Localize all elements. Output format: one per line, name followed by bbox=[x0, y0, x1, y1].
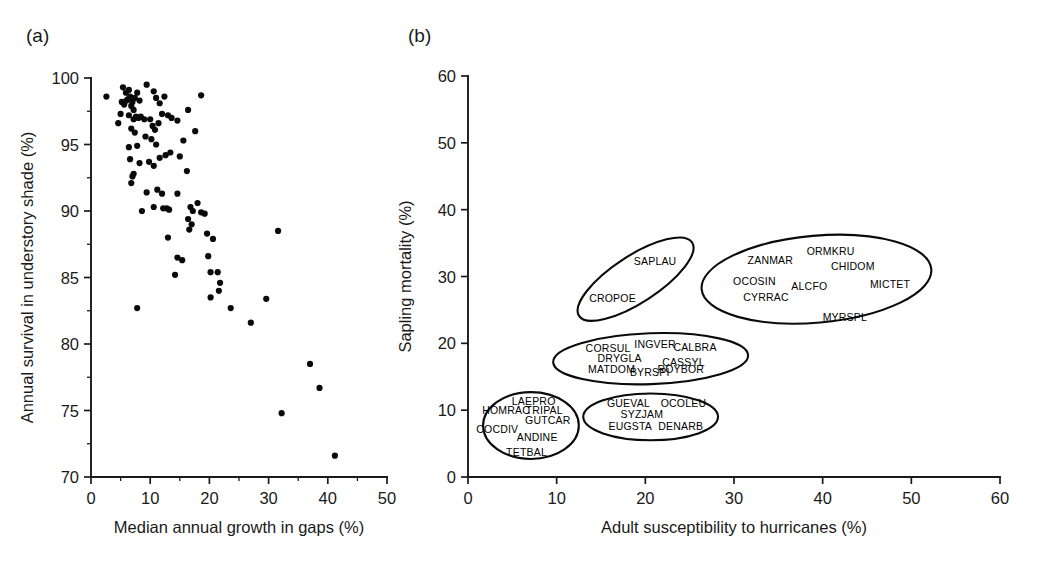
panel-a-ytick-label: 80 bbox=[61, 335, 79, 353]
scatter-point bbox=[134, 305, 140, 311]
group-shade-tolerant-mid: GUEVALOCOLEUSYZJAMEUGSTADENARB bbox=[583, 393, 718, 440]
scatter-point bbox=[217, 280, 223, 286]
scatter-point bbox=[167, 149, 173, 155]
scatter-point bbox=[134, 90, 140, 96]
scatter-point bbox=[131, 107, 137, 113]
group-saplau-cropoe: SAPLAUCROPOE bbox=[566, 223, 705, 336]
species-code-label: TETBAL bbox=[506, 446, 547, 458]
species-code-label: ORMKRU bbox=[807, 245, 855, 257]
scatter-point bbox=[153, 95, 159, 101]
species-code-label: MICTET bbox=[870, 278, 911, 290]
scatter-point bbox=[332, 453, 338, 459]
scatter-point bbox=[205, 253, 211, 259]
species-code-label: MATDOM bbox=[588, 363, 635, 375]
panel-b-xtick-label: 10 bbox=[547, 489, 565, 507]
scatter-point bbox=[179, 257, 185, 263]
scatter-point bbox=[148, 136, 154, 142]
scatter-point bbox=[142, 133, 148, 139]
scatter-point bbox=[103, 94, 109, 100]
species-code-label: ALCFO bbox=[791, 280, 827, 292]
panel-a-tag: (a) bbox=[26, 25, 49, 46]
panel-b-xaxis-title: Adult susceptibility to hurricanes (%) bbox=[601, 518, 867, 536]
scatter-point bbox=[126, 112, 132, 118]
scatter-point bbox=[141, 116, 147, 122]
figure-svg: (a)70758085909510001020304050Median annu… bbox=[0, 0, 1058, 562]
scatter-point bbox=[139, 208, 145, 214]
panel-a-xaxis-title: Median annual growth in gaps (%) bbox=[114, 518, 364, 536]
species-code-label: EUGSTA bbox=[608, 420, 652, 432]
scatter-point bbox=[136, 98, 142, 104]
panel-a-xtick-label: 20 bbox=[200, 489, 218, 507]
scatter-point bbox=[174, 191, 180, 197]
panel-a-xtick-label: 0 bbox=[86, 489, 95, 507]
scatter-point bbox=[146, 159, 152, 165]
group-hurricane-tolerant: ORMKRUZANMARCHIDOMOCOSINALCFOMICTETCYRRA… bbox=[698, 226, 935, 333]
scatter-point bbox=[159, 191, 165, 197]
scatter-point bbox=[190, 208, 196, 214]
scatter-point bbox=[307, 361, 313, 367]
species-code-label: SAPLAU bbox=[634, 255, 677, 267]
group-intermediate: INGVERCORSULCALBRADRYGLACASSYLMATDOMBYRS… bbox=[552, 330, 749, 388]
scatter-point bbox=[153, 141, 159, 147]
scatter-point bbox=[186, 227, 192, 233]
scatter-point bbox=[177, 153, 183, 159]
scatter-point bbox=[151, 88, 157, 94]
scatter-point bbox=[279, 410, 285, 416]
species-code-label: DENARB bbox=[658, 420, 703, 432]
scatter-point bbox=[275, 228, 281, 234]
scatter-point bbox=[129, 173, 135, 179]
species-code-label: CALBRA bbox=[673, 341, 716, 353]
panel-b-xtick-label: 50 bbox=[902, 489, 920, 507]
panel-b-xtick-label: 40 bbox=[813, 489, 831, 507]
scatter-point bbox=[185, 216, 191, 222]
species-code-label: ROYBOR bbox=[657, 363, 704, 375]
scatter-point bbox=[136, 160, 142, 166]
scatter-point bbox=[147, 116, 153, 122]
panel-a-ytick-label: 85 bbox=[61, 269, 79, 287]
scatter-point bbox=[166, 207, 172, 213]
scatter-point bbox=[152, 127, 158, 133]
species-code-label: OCOSIN bbox=[733, 275, 776, 287]
scatter-point bbox=[316, 385, 322, 391]
scatter-point bbox=[215, 269, 221, 275]
scatter-point bbox=[248, 320, 254, 326]
species-code-label: COCDIV bbox=[476, 423, 518, 435]
scatter-point bbox=[154, 187, 160, 193]
scatter-point bbox=[189, 221, 195, 227]
scatter-point bbox=[216, 288, 222, 294]
scatter-point bbox=[228, 305, 234, 311]
scatter-point bbox=[128, 180, 134, 186]
scatter-point bbox=[204, 231, 210, 237]
species-code-label: CYRRAC bbox=[743, 291, 789, 303]
panel-b-ytick-label: 0 bbox=[447, 468, 456, 486]
species-code-label: CHIDOM bbox=[831, 260, 875, 272]
scatter-point bbox=[194, 200, 200, 206]
scatter-point bbox=[157, 100, 163, 106]
scatter-point bbox=[210, 236, 216, 242]
species-code-label: HOMRAC bbox=[482, 404, 530, 416]
scatter-point bbox=[207, 269, 213, 275]
panel-b-ytick-label: 30 bbox=[438, 268, 456, 286]
scatter-point bbox=[118, 111, 124, 117]
species-code-label: ZANMAR bbox=[748, 254, 794, 266]
panel-b-ytick-label: 20 bbox=[438, 334, 456, 352]
panel-b-tag: (b) bbox=[408, 25, 431, 46]
scatter-point bbox=[151, 204, 157, 210]
scatter-point bbox=[172, 272, 178, 278]
scatter-point bbox=[159, 111, 165, 117]
panel-b-ytick-label: 40 bbox=[438, 201, 456, 219]
group-shade-tolerant-left: LAEPROHOMRACTRIPALGUTCARCOCDIVANDINETETB… bbox=[476, 392, 579, 459]
panel-b-ytick-label: 60 bbox=[438, 67, 456, 85]
panel-a-ytick-label: 95 bbox=[61, 136, 79, 154]
scatter-point bbox=[180, 137, 186, 143]
scatter-point bbox=[202, 211, 208, 217]
species-code-label: CROPOE bbox=[589, 292, 636, 304]
scatter-point bbox=[132, 129, 138, 135]
scatter-point bbox=[144, 82, 150, 88]
scatter-point bbox=[126, 87, 132, 93]
panel-a-xtick-label: 50 bbox=[378, 489, 396, 507]
panel-a-xtick-label: 40 bbox=[319, 489, 337, 507]
species-code-label: GUTCAR bbox=[525, 414, 571, 426]
scatter-point bbox=[207, 294, 213, 300]
scatter-point bbox=[151, 163, 157, 169]
